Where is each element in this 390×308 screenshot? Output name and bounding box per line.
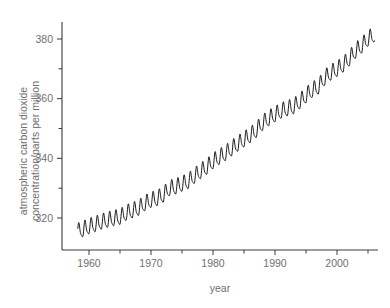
- co2-keeling-curve-chart: 320340360380 19601970198019902000 atmosp…: [0, 0, 390, 308]
- y-axis-title: atmospheric carbon dioxide concentration…: [17, 81, 41, 221]
- x-axis-group: 19601970198019902000: [62, 250, 378, 269]
- chart-page: 320340360380 19601970198019902000 atmosp…: [0, 0, 390, 308]
- y-axis-tick-marks: [57, 39, 62, 218]
- x-axis-tick-marks: [89, 250, 368, 255]
- x-tick-label: 1980: [201, 257, 225, 269]
- x-tick-label: 2000: [325, 257, 349, 269]
- y-axis-title-line-2: concentration/parts per million: [29, 81, 41, 221]
- y-tick-label: 380: [35, 33, 53, 45]
- x-axis-title: year: [210, 282, 231, 294]
- x-tick-label: 1960: [77, 257, 101, 269]
- x-tick-label: 1990: [263, 257, 287, 269]
- x-tick-label: 1970: [139, 257, 163, 269]
- y-axis-title-line-1: atmospheric carbon dioxide: [17, 87, 29, 216]
- x-axis-tick-labels: 19601970198019902000: [77, 257, 349, 269]
- co2-data-line: [78, 29, 375, 237]
